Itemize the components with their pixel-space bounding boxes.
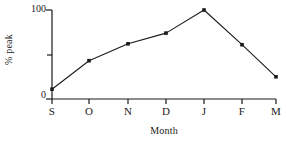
x-axis-tick-label-o: O (78, 105, 100, 117)
x-axis-tick-label-m: M (265, 105, 286, 117)
data-point-m (274, 75, 278, 79)
y-axis-title: % peak (3, 26, 14, 74)
data-point-n (126, 42, 130, 46)
y-axis-tick-label-0: 0 (22, 89, 46, 100)
line-chart-canvas (0, 0, 286, 144)
data-series-line (52, 10, 276, 89)
data-point-s (50, 87, 54, 91)
y-axis-tick-label-100: 100 (22, 3, 46, 14)
chart-figure: 100 0 % peak SONDJFM Month (0, 0, 286, 144)
data-point-f (240, 43, 244, 47)
x-axis-tick-label-f: F (231, 105, 253, 117)
data-point-markers (50, 8, 278, 91)
data-point-j (202, 8, 206, 12)
plot-area: 100 0 % peak SONDJFM Month (0, 0, 286, 144)
x-axis-tick-label-s: S (41, 105, 63, 117)
data-point-o (87, 59, 91, 63)
x-axis-tick-label-j: J (193, 105, 215, 117)
data-point-d (164, 31, 168, 35)
x-axis-tick-label-d: D (155, 105, 177, 117)
x-axis-tick-label-n: N (117, 105, 139, 117)
x-axis-title: Month (52, 125, 276, 136)
